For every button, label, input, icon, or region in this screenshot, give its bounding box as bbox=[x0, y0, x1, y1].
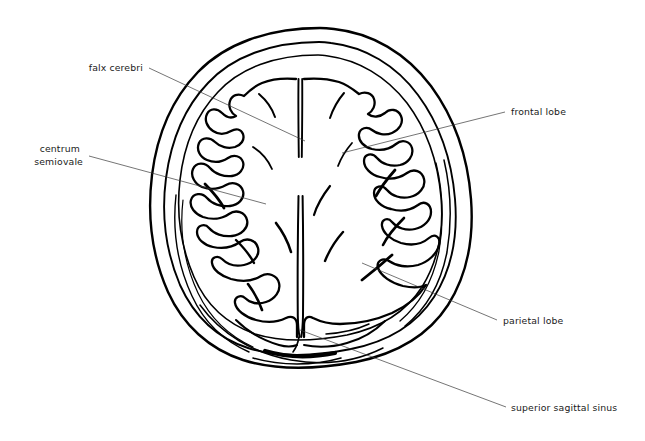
falx-cerebri-structure bbox=[293, 79, 303, 352]
labels-group: falx cerebri centrum semiovale frontal l… bbox=[34, 62, 617, 413]
brain-cross-section-svg: falx cerebri centrum semiovale frontal l… bbox=[0, 0, 645, 441]
leader-frontal-lobe bbox=[342, 112, 505, 153]
label-centrum-semiovale: centrum semiovale bbox=[34, 143, 83, 167]
leader-centrum-semiovale bbox=[89, 156, 266, 204]
right-hemisphere bbox=[304, 79, 439, 347]
label-superior-sagittal-sinus: superior sagittal sinus bbox=[511, 402, 617, 413]
leader-superior-sagittal-sinus bbox=[300, 330, 506, 407]
anatomical-diagram: falx cerebri centrum semiovale frontal l… bbox=[0, 0, 645, 441]
label-centrum-semiovale-line2: semiovale bbox=[34, 156, 83, 167]
label-frontal-lobe: frontal lobe bbox=[511, 106, 566, 117]
left-hemisphere bbox=[191, 79, 297, 347]
label-falx-cerebri: falx cerebri bbox=[89, 62, 143, 73]
label-parietal-lobe: parietal lobe bbox=[503, 315, 564, 326]
label-centrum-semiovale-line1: centrum bbox=[40, 143, 80, 154]
